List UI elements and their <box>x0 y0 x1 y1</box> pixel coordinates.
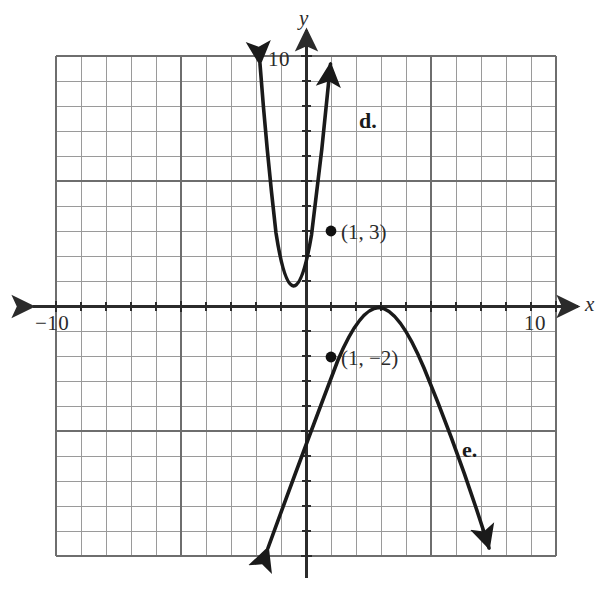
point-label-d: (1, 3) <box>341 220 387 245</box>
x-axis-max-tick-label: 10 <box>524 311 546 336</box>
point-label-e: (1, −2) <box>341 346 398 371</box>
graph-figure: y x −10 10 10 d. e. (1, 3) (1, −2) <box>0 0 612 610</box>
y-axis-max-tick-label: 10 <box>268 47 290 72</box>
parabola-d-curve <box>260 64 331 286</box>
curve-label-e: e. <box>462 437 477 463</box>
x-axis-label: x <box>585 292 594 317</box>
curve-label-d: d. <box>359 108 377 134</box>
point-marker-d <box>326 226 337 237</box>
axis-lines <box>33 30 578 578</box>
y-axis-label: y <box>299 6 308 31</box>
x-axis-min-tick-label: −10 <box>35 311 69 336</box>
coordinate-plane-svg <box>0 0 612 610</box>
point-marker-e <box>326 352 337 363</box>
